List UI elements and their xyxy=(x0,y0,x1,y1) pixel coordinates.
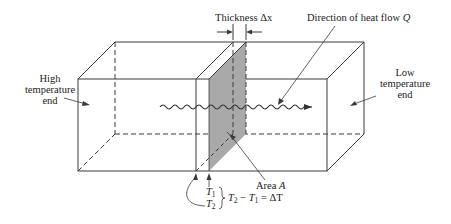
thickness-dimension xyxy=(217,24,262,40)
heat-conduction-diagram xyxy=(0,0,451,224)
delta-t-equation: T2 − T1 = ΔT xyxy=(228,192,283,206)
high-temperature-label: High temperature end xyxy=(21,73,79,106)
heat-flow-text: Direction of heat flow xyxy=(307,12,400,23)
t2-label: T2 xyxy=(206,198,216,212)
heat-flow-arrowhead xyxy=(304,104,312,110)
thickness-label: Thickness Δx xyxy=(215,12,272,23)
heat-flow-label: Direction of heat flow Q xyxy=(307,12,410,23)
slab-shaded-face xyxy=(209,42,246,171)
area-label: Area A xyxy=(256,180,285,191)
low-temperature-label: Low temperature end xyxy=(376,67,434,100)
heat-flow-symbol: Q xyxy=(403,12,411,23)
